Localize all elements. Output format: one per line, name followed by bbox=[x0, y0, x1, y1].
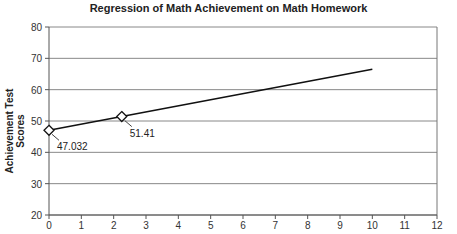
x-tick-label: 8 bbox=[305, 220, 311, 231]
x-tick-label: 6 bbox=[240, 220, 246, 231]
x-tick-label: 5 bbox=[208, 220, 214, 231]
label-leader-line bbox=[52, 134, 59, 140]
y-tick-label: 60 bbox=[31, 85, 43, 96]
y-tick-label: 30 bbox=[31, 179, 43, 190]
x-tick-label: 12 bbox=[431, 220, 443, 231]
x-tick-label: 1 bbox=[79, 220, 85, 231]
x-tick-label: 3 bbox=[143, 220, 149, 231]
x-tick-label: 4 bbox=[176, 220, 182, 231]
x-tick-label: 10 bbox=[367, 220, 379, 231]
y-tick-label: 80 bbox=[31, 22, 43, 33]
x-tick-label: 9 bbox=[337, 220, 343, 231]
diamond-marker-icon bbox=[44, 125, 54, 135]
diamond-marker-icon bbox=[117, 112, 127, 122]
x-tick-label: 7 bbox=[273, 220, 279, 231]
y-tick-label: 20 bbox=[31, 210, 43, 221]
x-tick-label: 11 bbox=[399, 220, 410, 231]
plot-area: 20304050607080012345678910111247.03251.4… bbox=[0, 0, 457, 234]
data-label: 51.41 bbox=[130, 128, 155, 139]
x-tick-label: 0 bbox=[46, 220, 52, 231]
y-tick-label: 50 bbox=[31, 116, 43, 127]
x-tick-label: 2 bbox=[111, 220, 117, 231]
y-tick-label: 70 bbox=[31, 53, 43, 64]
y-tick-label: 40 bbox=[31, 147, 43, 158]
data-label: 47.032 bbox=[57, 141, 88, 152]
